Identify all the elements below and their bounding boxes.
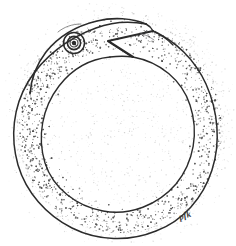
serpent-eye: [64, 33, 85, 54]
paper-background: [0, 0, 236, 246]
eye-pupil: [72, 41, 76, 45]
ouroboros-drawing: pfk: [0, 0, 236, 246]
artwork-canvas: pfk Ouroboros: [0, 0, 236, 246]
serpent-throat-contour: [110, 56, 133, 57]
